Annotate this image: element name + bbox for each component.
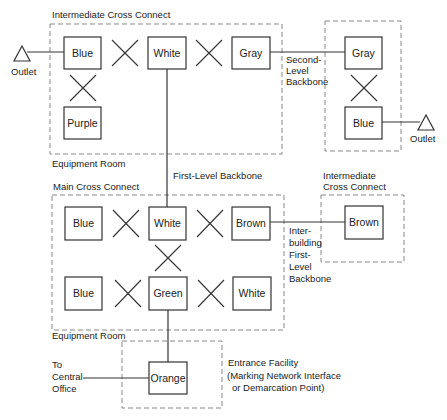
box-main-brown: Brown (232, 207, 270, 240)
interbuilding-label: Backbone (289, 273, 331, 284)
box-main-white-2: White (233, 277, 271, 310)
outlet-left-icon (14, 46, 30, 61)
cross-connect-x-icon (113, 210, 139, 237)
cross-connect-x-icon (351, 75, 377, 101)
to-central-office-label: Central (52, 371, 83, 382)
interbuilding-label: First- (289, 249, 311, 260)
right-icc-label: Cross Connect (323, 181, 386, 192)
box-main-blue-1: Blue (65, 207, 102, 240)
first-level-backbone-label: First-Level Backbone (173, 170, 262, 181)
box-right-gray: Gray (345, 37, 382, 69)
interbuilding-label: Inter- (289, 225, 311, 236)
box-label: Blue (73, 287, 94, 299)
box-label: Brown (236, 217, 266, 229)
cross-connect-x-icon (198, 280, 224, 307)
box-top-white: White (148, 37, 186, 69)
box-main-green: Green (149, 277, 187, 310)
cross-connect-x-icon (112, 40, 138, 66)
box-label: Brown (349, 216, 379, 228)
box-label: Blue (73, 217, 94, 229)
second-level-label: Second- (286, 54, 321, 65)
box-right-blue: Blue (345, 107, 382, 139)
box-label: White (154, 217, 181, 229)
cross-connect-x-icon (197, 210, 223, 237)
box-main-blue-2: Blue (65, 277, 102, 310)
box-top-blue: Blue (64, 37, 101, 69)
to-central-office-label: Office (52, 383, 77, 394)
main-cross-connect-label: Main Cross Connect (53, 181, 139, 192)
box-label: Orange (150, 372, 185, 384)
box-top-purple: Purple (64, 107, 101, 139)
box-main-white-1: White (149, 207, 186, 240)
box-label: Blue (72, 47, 93, 59)
entrance-facility-label: Entrance Facility (228, 357, 298, 368)
box-label: Green (153, 287, 182, 299)
cross-connect-x-icon (70, 75, 96, 101)
box-icc2-brown: Brown (345, 206, 383, 239)
box-label: Gray (352, 47, 376, 59)
top-icc-label: Intermediate Cross Connect (52, 9, 171, 20)
cabling-diagram: Blue White Gray Purple Gray Blue Blue Wh… (0, 0, 447, 420)
second-level-label: Backbone (286, 76, 328, 87)
box-label: White (154, 47, 181, 59)
top-equipment-room-label: Equipment Room (52, 158, 125, 169)
cross-connect-x-icon (196, 40, 222, 66)
second-level-label: Level (286, 65, 309, 76)
outlet-right-icon (418, 115, 434, 130)
to-central-office-label: To (52, 359, 62, 370)
cross-connect-x-icon (155, 245, 181, 271)
box-label: Gray (240, 47, 264, 59)
bottom-equipment-room-label: Equipment Room (52, 330, 125, 341)
box-label: White (239, 287, 266, 299)
outlet-right-label: Outlet (410, 133, 436, 144)
entrance-facility-label: or Demarcation Point) (232, 382, 324, 393)
outlet-left-label: Outlet (11, 66, 37, 77)
box-label: Purple (67, 117, 98, 129)
entrance-facility-label: (Marking Network Interface (227, 370, 341, 381)
box-top-gray: Gray (232, 37, 270, 69)
interbuilding-label: Level (289, 261, 312, 272)
box-orange: Orange (149, 362, 187, 394)
right-icc-label: Intermediate (323, 170, 376, 181)
interbuilding-label: building (289, 237, 322, 248)
box-label: Blue (353, 117, 374, 129)
cross-connect-x-icon (115, 280, 141, 307)
